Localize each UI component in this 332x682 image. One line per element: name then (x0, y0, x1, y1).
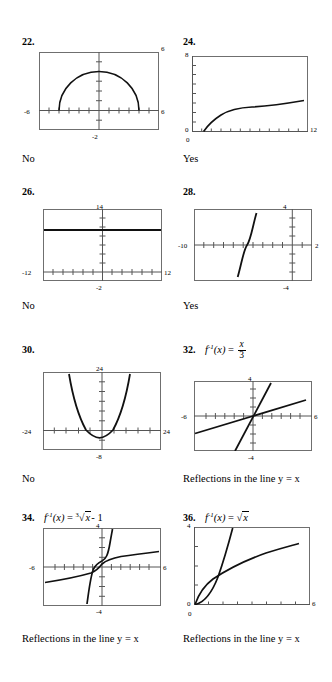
graph-28-xlabel-right: 2 (315, 240, 319, 252)
radicand: x (242, 511, 249, 523)
problem-number-22: 22. (22, 36, 35, 48)
graph-26 (43, 209, 162, 281)
answer-32-text: Reflections in the line y = x (183, 473, 300, 484)
graph-32-xlabel-left: -6 (181, 411, 187, 423)
graph-34-svg (43, 528, 161, 606)
graph-28-ylabel-top: 4 (283, 201, 287, 213)
problem-number-24: 24. (183, 36, 196, 48)
graph-36-xlabel-right: 6 (312, 598, 316, 610)
graph-24-svg (192, 56, 308, 132)
fn-argument: (x) (214, 512, 226, 523)
graph-34-ylabel-top: 4 (96, 520, 100, 532)
problem-number-30: 30. (22, 344, 35, 356)
graph-30-xlabel-left: -24 (22, 426, 31, 438)
graph-28-ylabel-bottom: -4 (283, 282, 289, 294)
plot-frame (195, 528, 310, 605)
problem-24-number: 24. (183, 36, 196, 47)
graph-28 (194, 209, 312, 281)
graph-36-xlabel-left: 0 (188, 608, 192, 620)
graph-34-ylabel-bottom: -4 (96, 606, 102, 618)
graph-30 (43, 372, 161, 450)
answer-22: No (22, 153, 35, 165)
graph-26-ylabel-bottom: -2 (96, 282, 102, 294)
problem-number-34: 34. f-1(x) = 3√x- 1 (22, 508, 103, 524)
graph-30-svg (43, 372, 161, 450)
graph-22 (39, 52, 159, 130)
answer-26: No (22, 300, 35, 312)
problem-32-expression: f-1(x) = x3 (205, 344, 247, 355)
graph-28-svg (194, 209, 312, 281)
graph-22-svg (39, 52, 159, 130)
graph-34-xlabel-right: 6 (163, 562, 167, 574)
graph-24-xlabel-left: 0 (186, 134, 190, 146)
graph-22-xlabel-left: -6 (24, 106, 30, 118)
problem-34-number: 34. (22, 512, 35, 523)
graph-32-svg (194, 381, 312, 451)
graph-32 (194, 381, 312, 451)
fraction-x-over-3: x3 (238, 340, 246, 360)
graph-26-ylabel-top: 14 (96, 201, 103, 213)
graph-30-xlabel-right: 24 (163, 426, 170, 438)
graph-26-svg (43, 209, 162, 281)
answer-36: Reflections in the line y = x (183, 633, 300, 645)
answer-36-text: Reflections in the line y = x (183, 633, 300, 644)
problem-34-expression: f-1(x) = 3√x- 1 (44, 512, 103, 523)
graph-26-xlabel-left: -12 (22, 267, 31, 279)
fraction-denominator: 3 (238, 351, 246, 361)
equals-sign: = (228, 512, 234, 523)
graph-32-ylabel-top: 4 (248, 373, 252, 385)
equals-sign: = (67, 512, 73, 523)
graph-32-xlabel-right: 6 (314, 411, 318, 423)
cube-root-radical: 3√x (76, 512, 92, 523)
graph-26-xlabel-right: 12 (164, 267, 171, 279)
problem-30-number: 30. (22, 344, 35, 355)
answer-34: Reflections in the line y = x (22, 633, 139, 645)
radical-sign: √ (79, 512, 85, 523)
graph-22-ylabel-bottom: -2 (92, 131, 98, 143)
graph-36 (194, 527, 310, 605)
problem-number-26: 26. (22, 186, 35, 198)
answer-30: No (22, 473, 35, 485)
answer-key-page: 22. 6 -6 6 -2 No (0, 0, 332, 682)
graph-32-ylabel-bottom: -4 (248, 452, 254, 464)
graph-36-ylabel-top: 4 (187, 520, 191, 532)
fn-argument: (x) (214, 344, 226, 355)
answer-24: Yes (183, 153, 198, 165)
fn-argument: (x) (53, 512, 65, 523)
problem-number-36: 36. f-1(x) = √x (183, 508, 249, 524)
square-root-radical: √x (237, 511, 249, 523)
graph-36-svg (194, 527, 310, 605)
graph-34-xlabel-left: -6 (29, 562, 35, 574)
graph-24 (192, 56, 308, 132)
answer-32: Reflections in the line y = x (183, 473, 300, 485)
graph-24-xlabel-right: 12 (310, 124, 317, 136)
problem-number-32: 32. f-1(x) = x3 (183, 340, 247, 360)
graph-34 (43, 528, 161, 606)
graph-30-ylabel-bottom: -8 (96, 451, 102, 463)
equals-sign: = (228, 344, 234, 355)
problem-number-28: 28. (183, 186, 196, 198)
problem-36-expression: f-1(x) = √x (205, 512, 249, 523)
graph-22-ylabel-top: 6 (161, 43, 165, 55)
problem-28-number: 28. (183, 186, 196, 197)
graph-22-xlabel-right: 6 (161, 106, 165, 118)
answer-34-text: Reflections in the line y = x (22, 633, 139, 644)
graph-28-xlabel-left: -10 (178, 240, 187, 252)
graph-24-ylabel-top: 8 (185, 49, 189, 61)
plot-frame (193, 57, 308, 132)
problem-26-number: 26. (22, 186, 35, 197)
problem-32-number: 32. (183, 344, 196, 355)
answer-28: Yes (183, 300, 198, 312)
graph-30-ylabel-top: 24 (96, 363, 103, 375)
problem-22-number: 22. (22, 36, 35, 47)
